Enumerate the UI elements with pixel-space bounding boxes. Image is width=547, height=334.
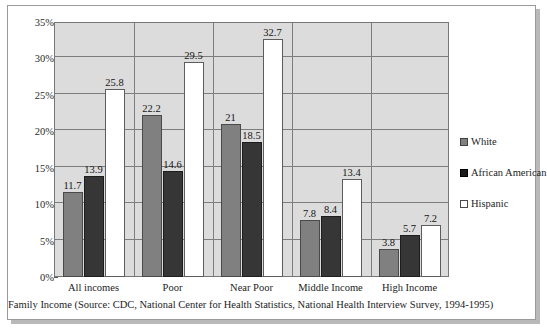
bar-value-label: 14.6	[163, 159, 181, 170]
y-axis-tick-label: 20%	[14, 126, 54, 137]
bar-value-label: 7.8	[303, 208, 316, 219]
legend-swatch-icon	[460, 138, 468, 146]
bar	[84, 176, 104, 277]
legend: WhiteAfrican AmericanHispanic	[460, 136, 540, 229]
legend-swatch-icon	[460, 200, 468, 208]
category-label: Near Poor	[230, 282, 273, 293]
bar-value-label: 13.4	[342, 167, 360, 178]
figure-frame: 0%5%10%15%20%25%30%35% 11.713.925.822.21…	[7, 5, 536, 320]
bar	[379, 249, 399, 277]
bar	[63, 192, 83, 277]
bar	[421, 225, 441, 277]
bar	[400, 235, 420, 277]
bar-value-label: 3.8	[382, 237, 395, 248]
bar-value-label: 8.4	[324, 204, 337, 215]
bar	[142, 115, 162, 277]
bar-value-label: 11.7	[64, 180, 82, 191]
y-axis-tick-label: 25%	[14, 89, 54, 100]
bar-value-label: 29.5	[184, 50, 202, 61]
legend-label: Hispanic	[471, 198, 508, 209]
bar-value-label: 22.2	[142, 103, 160, 114]
bar	[105, 89, 125, 277]
bar	[163, 171, 183, 277]
y-axis-tick-label: 5%	[14, 235, 54, 246]
category-label: Middle Income	[298, 282, 362, 293]
bar-value-label: 5.7	[403, 223, 416, 234]
y-axis-tick-label: 10%	[14, 199, 54, 210]
bar-value-label: 21	[225, 112, 236, 123]
x-axis-caption: Family Income (Source: CDC, National Cen…	[8, 299, 478, 310]
bar	[184, 62, 204, 277]
bar-value-label: 32.7	[263, 27, 281, 38]
legend-swatch-icon	[460, 169, 468, 177]
bar	[321, 216, 341, 277]
legend-label: African American	[471, 167, 547, 178]
bar-chart: 0%5%10%15%20%25%30%35% 11.713.925.822.21…	[8, 6, 535, 319]
bar	[221, 124, 241, 277]
bar	[263, 39, 283, 277]
bar-value-label: 18.5	[242, 130, 260, 141]
legend-item: Hispanic	[460, 198, 540, 209]
y-axis-tick-label: 15%	[14, 162, 54, 173]
y-axis-tick-label: 35%	[14, 17, 54, 28]
y-axis: 0%5%10%15%20%25%30%35%	[8, 22, 54, 277]
category-label: High Income	[382, 282, 437, 293]
bar-value-label: 13.9	[84, 164, 102, 175]
category-label: Poor	[163, 282, 183, 293]
y-axis-tick-label: 0%	[14, 272, 54, 283]
legend-label: White	[471, 136, 497, 147]
legend-item: White	[460, 136, 540, 147]
y-axis-tick-label: 30%	[14, 53, 54, 64]
bar-value-label: 7.2	[424, 213, 437, 224]
y-axis-tick-mark	[54, 277, 58, 278]
bar	[342, 179, 362, 277]
bar	[242, 142, 262, 277]
bar	[300, 220, 320, 277]
bars-layer: 11.713.925.822.214.629.52118.532.77.88.4…	[54, 22, 449, 277]
legend-item: African American	[460, 167, 540, 178]
category-label: All incomes	[68, 282, 119, 293]
bar-value-label: 25.8	[105, 77, 123, 88]
